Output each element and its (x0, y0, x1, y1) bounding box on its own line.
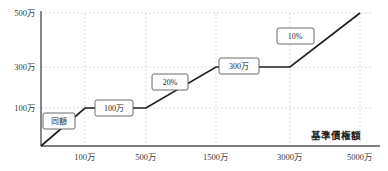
callout-100man: 100万 (95, 100, 133, 116)
callout-label-5: 10% (288, 32, 303, 41)
callout-label-4: 300万 (229, 62, 249, 71)
step-chart-figure: 500万 300万 100万 100万 500万 1500万 3000万 500… (0, 0, 388, 171)
horizontal-gridlines (41, 13, 372, 108)
vertical-gridlines (85, 13, 360, 145)
callout-label-1: 同額 (51, 116, 67, 126)
xtick-label-3000man: 3000万 (277, 152, 303, 162)
xtick-label-500man: 500万 (135, 152, 157, 162)
x-axis-title: 基準債権額 (310, 130, 361, 141)
ytick-label-500: 500万 (14, 8, 36, 18)
callout-label-3: 20% (163, 78, 178, 87)
xtick-label-5000man: 5000万 (347, 152, 373, 162)
callout-20pct: 20% (152, 74, 188, 90)
callout-300man: 300万 (219, 58, 259, 74)
callout-doukaku: 同額 (43, 113, 75, 129)
ytick-label-300: 300万 (14, 62, 36, 72)
chart-canvas: 500万 300万 100万 100万 500万 1500万 3000万 500… (0, 0, 388, 171)
callout-10pct: 10% (277, 28, 314, 44)
ytick-label-100: 100万 (14, 103, 36, 113)
xtick-label-100man: 100万 (74, 152, 96, 162)
callout-label-2: 100万 (104, 104, 124, 113)
xtick-label-1500man: 1500万 (203, 152, 229, 162)
